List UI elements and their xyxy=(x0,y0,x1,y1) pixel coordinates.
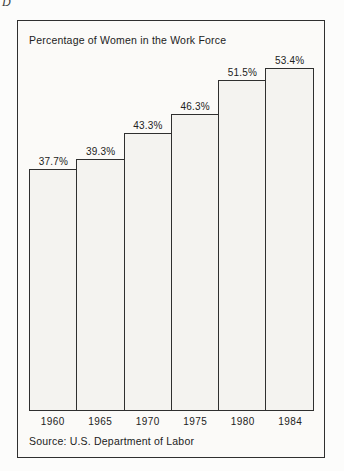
bar-value-label: 39.3% xyxy=(86,146,115,157)
x-axis-tick-label: 1980 xyxy=(219,416,267,427)
bar-1970: 43.3% xyxy=(124,133,173,411)
x-axis-tick-label: 1984 xyxy=(267,416,315,427)
bar-1965: 39.3% xyxy=(76,159,125,411)
bar-1980: 51.5% xyxy=(218,80,267,411)
bar-plot-area: 37.7%39.3%43.3%46.3%51.5%53.4% xyxy=(29,66,314,411)
bar-1960: 37.7% xyxy=(29,169,78,411)
x-axis-tick-label: 1975 xyxy=(172,416,220,427)
chart-title: Percentage of Women in the Work Force xyxy=(29,34,226,46)
bar-value-label: 43.3% xyxy=(133,120,162,131)
chart-frame: Percentage of Women in the Work Force 37… xyxy=(17,20,325,458)
bar-value-label: 46.3% xyxy=(180,101,209,112)
bar-value-label: 37.7% xyxy=(39,156,68,167)
x-axis-tick-label: 1965 xyxy=(77,416,125,427)
x-axis-tick-label: 1960 xyxy=(29,416,77,427)
source-note: Source: U.S. Department of Labor xyxy=(29,435,194,447)
page-margin-letter: D xyxy=(2,0,11,10)
bar-1975: 46.3% xyxy=(171,114,220,411)
bar-value-label: 53.4% xyxy=(275,55,304,66)
bar-1984: 53.4% xyxy=(265,68,314,411)
x-axis-labels: 196019651970197519801984 xyxy=(29,416,314,427)
bar-value-label: 51.5% xyxy=(228,67,257,78)
x-axis-tick-label: 1970 xyxy=(124,416,172,427)
